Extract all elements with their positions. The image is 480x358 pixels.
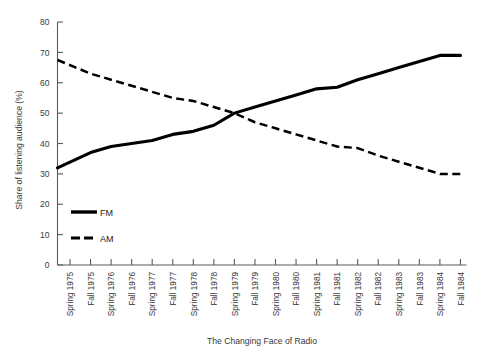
x-axis-title: The Changing Face of Radio: [207, 336, 317, 346]
legend-label-fm: FM: [100, 208, 113, 218]
x-tick-label-7: Fall 1978: [210, 272, 219, 306]
x-tick-label-17: Fall 1983: [416, 272, 425, 306]
line-chart: 01020304050607080 Spring 1975Fall 1975Sp…: [0, 0, 480, 358]
y-axis-tick-labels: 01020304050607080: [40, 17, 50, 270]
x-tick-label-13: Fall 1981: [333, 272, 342, 306]
legend-label-am: AM: [100, 234, 114, 244]
y-tick-label-70: 70: [40, 48, 50, 58]
x-tick-label-14: Spring 1982: [354, 272, 363, 317]
x-tick-label-18: Spring 1984: [436, 272, 445, 317]
x-tick-label-12: Spring 1981: [313, 272, 322, 317]
y-tick-label-30: 30: [40, 169, 50, 179]
x-tick-label-1: Fall 1975: [87, 272, 96, 306]
x-tick-label-10: Spring 1980: [272, 272, 281, 317]
y-tick-label-40: 40: [40, 139, 50, 149]
x-tick-label-16: Spring 1983: [395, 272, 404, 317]
series-line-am: [58, 60, 461, 174]
y-axis-title: Share of listening audience (%): [14, 90, 24, 210]
series-layer: [58, 55, 461, 173]
x-tick-label-3: Fall 1976: [128, 272, 137, 306]
x-tick-label-8: Spring 1979: [231, 272, 240, 317]
x-tick-label-5: Fall 1977: [169, 272, 178, 306]
y-tick-label-80: 80: [40, 17, 50, 27]
y-tick-label-10: 10: [40, 230, 50, 240]
x-tick-label-19: Fall 1984: [457, 272, 466, 306]
y-axis-tick-marks: [58, 22, 64, 265]
x-tick-label-9: Fall 1979: [251, 272, 260, 306]
y-tick-label-60: 60: [40, 78, 50, 88]
series-line-fm: [58, 55, 461, 167]
x-tick-label-15: Fall 1982: [374, 272, 383, 306]
x-tick-label-2: Spring 1976: [107, 272, 116, 317]
y-tick-label-0: 0: [45, 260, 50, 270]
x-tick-label-11: Fall 1980: [292, 272, 301, 306]
chart-container: 01020304050607080 Spring 1975Fall 1975Sp…: [0, 0, 480, 358]
x-axis-tick-marks: [70, 259, 460, 265]
x-tick-label-0: Spring 1975: [66, 272, 75, 317]
y-tick-label-20: 20: [40, 199, 50, 209]
chart-legend: FM AM: [71, 208, 114, 244]
x-axis-tick-labels: Spring 1975Fall 1975Spring 1976Fall 1976…: [66, 272, 465, 317]
x-tick-label-4: Spring 1977: [148, 272, 157, 317]
x-tick-label-6: Spring 1978: [190, 272, 199, 317]
y-tick-label-50: 50: [40, 108, 50, 118]
